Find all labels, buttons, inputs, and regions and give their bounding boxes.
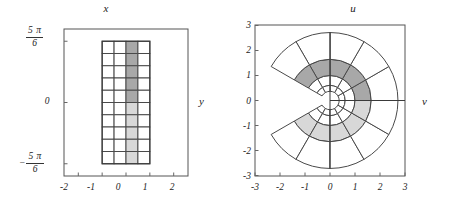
left-grid-cell	[102, 152, 114, 164]
left-grid-cell	[102, 127, 114, 139]
left-grid-cell	[114, 66, 126, 78]
left-grid-cell	[114, 90, 126, 102]
left-grid-cell	[102, 139, 114, 151]
left-grid-cell	[138, 127, 150, 139]
left-grid-cell	[102, 53, 114, 65]
left-grid-cell	[138, 115, 150, 127]
left-grid-cell	[138, 103, 150, 115]
left-grid-cell	[138, 139, 150, 151]
left-grid-cell	[138, 152, 150, 164]
left-grid-cell	[138, 66, 150, 78]
figure-container: x y 5 π 6 0 − 5 π 6 -2 -1 0 1 2	[0, 0, 451, 212]
left-grid-cell	[138, 53, 150, 65]
left-grid-cell-shaded	[126, 127, 138, 139]
left-grid-cell	[114, 41, 126, 53]
left-grid-cell-shaded	[126, 78, 138, 90]
left-grid-cell-shaded	[126, 115, 138, 127]
left-grid-cell	[102, 41, 114, 53]
left-grid-cell	[114, 103, 126, 115]
left-grid-cell	[102, 90, 114, 102]
left-grid-cell	[138, 41, 150, 53]
left-grid-cell	[102, 66, 114, 78]
left-grid-cell	[114, 78, 126, 90]
left-grid-cell-shaded	[126, 152, 138, 164]
right-plot-canvas	[225, 0, 451, 212]
left-grid-cell-shaded	[126, 66, 138, 78]
left-grid-cell	[102, 103, 114, 115]
left-grid-cell-shaded	[126, 139, 138, 151]
left-grid-cell-shaded	[126, 41, 138, 53]
left-grid-cell	[102, 115, 114, 127]
panel-image-plot: u v 3 2 1 0 -1 -2 -3 -3 -2 -1 0 1 2 3	[225, 0, 451, 212]
left-plot-canvas	[0, 0, 225, 212]
left-grid-cell	[138, 90, 150, 102]
left-grid-cell	[138, 78, 150, 90]
left-grid-cells	[102, 41, 150, 164]
left-grid-cell	[114, 139, 126, 151]
left-grid-cell	[102, 78, 114, 90]
left-grid-cell	[114, 152, 126, 164]
left-grid-cell-shaded	[126, 90, 138, 102]
left-grid-cell-shaded	[126, 103, 138, 115]
panel-domain-plot: x y 5 π 6 0 − 5 π 6 -2 -1 0 1 2	[0, 0, 225, 212]
left-grid-cell-shaded	[126, 53, 138, 65]
left-grid-cell	[114, 115, 126, 127]
left-grid-cell	[114, 127, 126, 139]
left-grid-cell	[114, 53, 126, 65]
